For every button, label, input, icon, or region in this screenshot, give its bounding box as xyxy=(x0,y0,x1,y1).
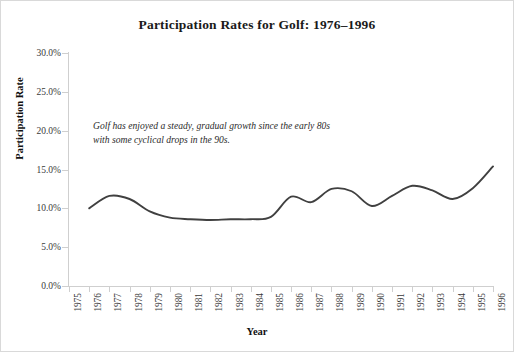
x-axis-tick-label: 1982 xyxy=(214,293,224,312)
x-axis-tick-label: 1975 xyxy=(73,293,83,312)
x-axis-tick-label: 1980 xyxy=(174,293,184,312)
x-axis-tick xyxy=(453,286,454,292)
x-axis-tick xyxy=(170,286,171,292)
x-axis-tick xyxy=(69,286,70,292)
y-axis-tick xyxy=(62,247,69,248)
x-axis-tick-label: 1985 xyxy=(275,293,285,312)
x-axis-tick-label: 1987 xyxy=(315,293,325,312)
y-axis-tick-label: 5.0% xyxy=(17,242,61,252)
x-axis-tick xyxy=(372,286,373,292)
x-axis-tick xyxy=(432,286,433,292)
x-axis-tick xyxy=(150,286,151,292)
x-axis-tick xyxy=(190,286,191,292)
x-axis-tick-label: 1991 xyxy=(396,293,406,312)
x-axis-tick-label: 1978 xyxy=(134,293,144,312)
x-axis-tick-label: 1995 xyxy=(477,293,487,312)
y-axis-tick xyxy=(62,53,69,54)
chart-annotation: Golf has enjoyed a steady, gradual growt… xyxy=(93,119,343,147)
x-axis-tick xyxy=(251,286,252,292)
x-axis-tick xyxy=(352,286,353,292)
x-axis-tick xyxy=(291,286,292,292)
y-axis-title: Participation Rate xyxy=(14,54,25,184)
y-axis-tick xyxy=(62,131,69,132)
x-axis-line xyxy=(68,286,494,287)
x-axis-tick xyxy=(331,286,332,292)
y-axis-tick xyxy=(62,286,69,287)
series-line xyxy=(89,166,493,220)
x-axis-tick xyxy=(473,286,474,292)
x-axis-tick xyxy=(231,286,232,292)
y-axis-tick xyxy=(62,208,69,209)
x-axis-tick-label: 1984 xyxy=(255,293,265,312)
x-axis-tick xyxy=(109,286,110,292)
x-axis-tick xyxy=(493,286,494,292)
x-axis-tick-label: 1986 xyxy=(295,293,305,312)
x-axis-tick-label: 1993 xyxy=(436,293,446,312)
x-axis-title: Year xyxy=(1,326,513,337)
x-axis-tick xyxy=(210,286,211,292)
x-axis-tick xyxy=(130,286,131,292)
x-axis-tick-label: 1988 xyxy=(335,293,345,312)
y-axis-tick xyxy=(62,92,69,93)
y-axis-tick-label: 0.0% xyxy=(17,281,61,291)
x-axis-tick-label: 1977 xyxy=(113,293,123,312)
chart-figure: Participation Rates for Golf: 1976–1996 … xyxy=(0,0,514,352)
x-axis-tick-label: 1994 xyxy=(457,293,467,312)
y-axis-tick-label: 10.0% xyxy=(17,203,61,213)
x-axis-tick xyxy=(311,286,312,292)
x-axis-tick-label: 1981 xyxy=(194,293,204,312)
x-axis-tick-label: 1992 xyxy=(416,293,426,312)
x-axis-tick-label: 1979 xyxy=(154,293,164,312)
x-axis-tick-label: 1983 xyxy=(235,293,245,312)
x-axis-tick xyxy=(89,286,90,292)
x-axis-tick xyxy=(392,286,393,292)
x-axis-tick-label: 1990 xyxy=(376,293,386,312)
x-axis-tick-label: 1996 xyxy=(497,293,507,312)
x-axis-tick xyxy=(412,286,413,292)
chart-title: Participation Rates for Golf: 1976–1996 xyxy=(1,17,513,33)
x-axis-tick-label: 1976 xyxy=(93,293,103,312)
x-axis-tick-label: 1989 xyxy=(356,293,366,312)
y-axis-tick xyxy=(62,170,69,171)
x-axis-tick xyxy=(271,286,272,292)
